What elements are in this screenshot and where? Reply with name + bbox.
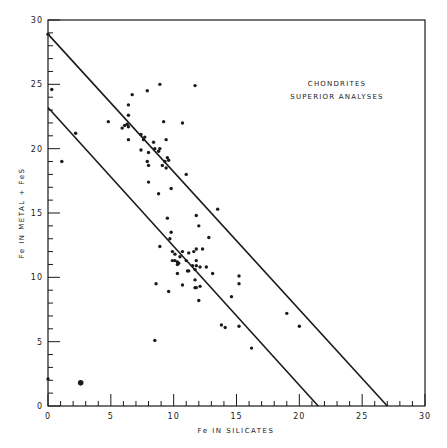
data-point: [154, 282, 157, 285]
data-point: [230, 295, 233, 298]
data-point: [201, 247, 204, 250]
data-point: [164, 138, 167, 141]
data-point: [197, 224, 200, 227]
x-axis: 051015202530: [45, 394, 431, 421]
data-point: [185, 259, 188, 262]
data-point: [220, 323, 223, 326]
data-point: [153, 147, 156, 150]
data-point: [50, 88, 53, 91]
scatter-chart: 051015202530 051015202530 CHONDRITES SUP…: [0, 0, 447, 448]
data-point: [146, 89, 149, 92]
data-point: [74, 132, 77, 135]
data-point: [205, 265, 208, 268]
data-point: [285, 312, 288, 315]
data-point: [127, 103, 130, 106]
y-axis: 051015202530: [31, 16, 60, 411]
x-tick-label: 15: [230, 412, 242, 421]
data-point: [250, 346, 253, 349]
y-tick-label: 30: [31, 16, 43, 25]
data-point: [127, 138, 130, 141]
data-point: [139, 148, 142, 151]
annotation-line-2: SUPERIOR ANALYSES: [290, 93, 384, 101]
data-point: [157, 150, 160, 153]
data-point: [146, 160, 149, 163]
lower-boundary-line: [48, 107, 318, 406]
data-point: [171, 259, 174, 262]
y-tick-label: 10: [31, 273, 43, 282]
data-point: [195, 247, 198, 250]
data-point: [237, 274, 240, 277]
data-point: [197, 299, 200, 302]
data-point: [181, 250, 184, 253]
data-point: [211, 272, 214, 275]
y-tick-label: 5: [37, 338, 43, 347]
data-point: [127, 114, 130, 117]
plot-area: [46, 20, 425, 406]
plot-frame: [48, 20, 425, 406]
data-point: [193, 84, 196, 87]
data-point: [78, 380, 84, 386]
x-tick-label: 30: [419, 412, 431, 421]
data-point: [192, 250, 195, 253]
x-tick-label: 25: [356, 412, 368, 421]
data-point: [147, 151, 150, 154]
data-point: [195, 286, 198, 289]
data-point: [164, 166, 167, 169]
data-point: [167, 159, 170, 162]
data-point: [171, 250, 174, 253]
x-tick-label: 10: [168, 412, 180, 421]
data-point: [191, 264, 194, 267]
data-point: [237, 282, 240, 285]
data-point: [157, 192, 160, 195]
data-point: [147, 164, 150, 167]
data-point: [298, 325, 301, 328]
x-tick-label: 20: [293, 412, 305, 421]
data-point: [216, 207, 219, 210]
y-tick-label: 25: [31, 80, 43, 89]
y-axis-title: Fe IN METAL + FeS: [18, 168, 26, 259]
data-point: [60, 160, 63, 163]
data-point: [152, 141, 155, 144]
data-point: [181, 121, 184, 124]
data-point: [193, 268, 196, 271]
x-tick-label: 5: [108, 412, 114, 421]
y-tick-label: 20: [31, 145, 43, 154]
data-point: [198, 285, 201, 288]
data-point: [207, 236, 210, 239]
data-point: [167, 290, 170, 293]
data-point: [161, 164, 164, 167]
data-point: [120, 126, 123, 129]
data-point: [185, 173, 188, 176]
data-point: [107, 120, 110, 123]
data-point: [173, 252, 176, 255]
data-point: [187, 269, 190, 272]
data-point: [223, 326, 226, 329]
data-point: [237, 325, 240, 328]
data-point: [153, 339, 156, 342]
data-point: [198, 265, 201, 268]
y-tick-label: 15: [31, 209, 43, 218]
data-point: [130, 93, 133, 96]
data-point: [127, 125, 130, 128]
data-point: [158, 83, 161, 86]
data-point: [139, 133, 142, 136]
data-point: [168, 237, 171, 240]
data-point: [193, 278, 196, 281]
data-point: [163, 160, 166, 163]
x-axis-title: Fe IN SILICATES: [198, 427, 275, 435]
data-point: [169, 231, 172, 234]
data-point: [176, 272, 179, 275]
data-point: [187, 251, 190, 254]
x-tick-label: 0: [45, 412, 51, 421]
data-point: [178, 255, 181, 258]
data-point: [181, 283, 184, 286]
data-point: [147, 180, 150, 183]
data-point: [162, 120, 165, 123]
data-point: [169, 187, 172, 190]
annotation-line-1: CHONDRITES: [308, 80, 366, 88]
y-tick-label: 0: [37, 402, 43, 411]
data-point: [142, 138, 145, 141]
data-point: [176, 263, 179, 266]
data-point: [195, 259, 198, 262]
data-point: [195, 264, 198, 267]
